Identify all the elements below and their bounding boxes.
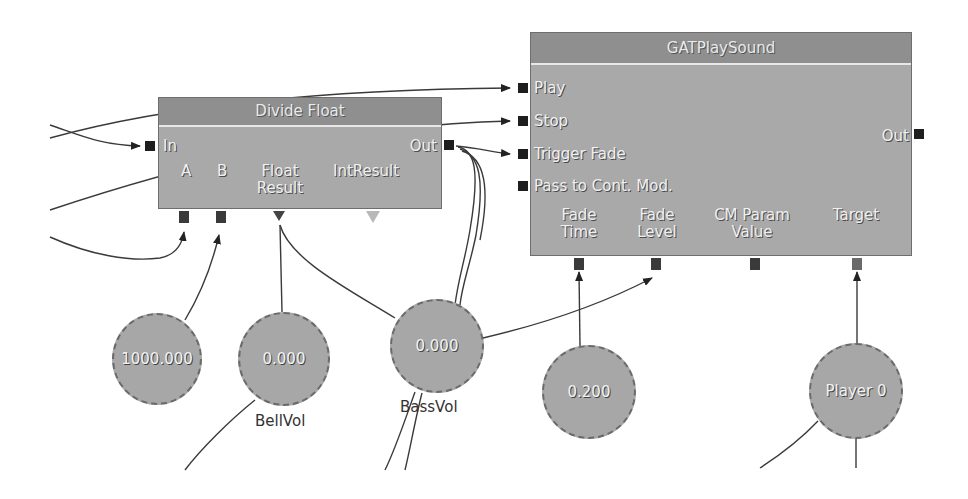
cm-param-value-port[interactable] [750,258,760,270]
var-link-intresult-label: IntResult [333,163,399,180]
fade-level-line1: Fade [639,206,674,224]
gat-play-sound-node[interactable]: GATPlaySound Play Stop Trigger Fade Pass… [530,32,912,256]
gat-out-port[interactable] [914,129,924,139]
fade-time-line2: Time [561,223,598,241]
divide-float-title: Divide Float [159,98,441,127]
var-link-float-result-label: Float Result [255,163,305,197]
variable-bassvol[interactable]: 0.000 [390,299,484,393]
fade-time-port[interactable] [574,258,584,270]
trigger-fade-input-port[interactable] [518,149,528,159]
fade-time-line1: Fade [561,206,596,224]
variable-float-0200[interactable]: 0.200 [542,345,636,439]
intresult-output-arrow-icon[interactable] [366,211,380,223]
fade-level-line2: Level [637,223,677,241]
variable-bellvol[interactable]: 0.000 [238,312,330,406]
variable-value: 0.000 [416,337,459,355]
output-out-label: Out [882,128,909,145]
variable-name-bassvol: BassVol [400,398,458,416]
divide-float-node[interactable]: Divide Float In Out A B Float Result Int… [158,97,442,209]
cm-param-line1: CM Param [714,206,790,224]
variable-name-bellvol: BellVol [255,412,305,430]
variable-value: 1000.000 [121,350,193,368]
stop-input-port[interactable] [518,116,528,126]
divide-out-port[interactable] [444,140,454,150]
divide-b-port[interactable] [216,211,226,223]
input-in-label: In [163,138,177,155]
float-result-output-arrow-icon[interactable] [273,211,285,221]
fade-level-port[interactable] [651,258,661,270]
output-out-label: Out [410,138,437,155]
divide-in-port[interactable] [145,141,155,151]
var-link-fade-time-label: Fade Time [553,207,605,241]
play-input-port[interactable] [518,83,528,93]
variable-player-0[interactable]: Player 0 [809,343,903,439]
divide-a-port[interactable] [179,211,189,223]
variable-value: 0.200 [568,383,611,401]
input-play-label: Play [534,80,565,97]
variable-float-1000[interactable]: 1000.000 [112,313,202,405]
input-stop-label: Stop [534,113,568,130]
float-label-line2: Result [257,179,303,197]
var-link-fade-level-label: Fade Level [629,207,685,241]
target-port[interactable] [852,258,862,270]
variable-value: Player 0 [826,382,887,400]
var-link-a-label: A [181,163,191,180]
input-trigger-fade-label: Trigger Fade [534,146,626,163]
input-pass-to-cont-mod-label: Pass to Cont. Mod. [534,178,673,195]
var-link-target-label: Target [823,207,889,224]
cm-param-line2: Value [731,223,772,241]
var-link-b-label: B [217,163,227,180]
var-link-cm-param-value-label: CM Param Value [707,207,797,241]
pass-to-cont-mod-input-port[interactable] [518,181,528,191]
gat-play-sound-title: GATPlaySound [531,33,911,65]
float-label-line1: Float [261,162,298,180]
variable-value: 0.000 [263,350,306,368]
